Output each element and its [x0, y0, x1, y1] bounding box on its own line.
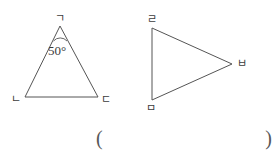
answer-blank[interactable]: ( )	[96, 126, 272, 150]
close-paren: )	[265, 128, 272, 148]
vertex-label-nieun: ㄴ	[11, 94, 21, 105]
left-triangle-shape	[25, 26, 98, 97]
angle-arc-50	[54, 38, 68, 41]
vertex-label-digeut: ㄷ	[101, 94, 111, 105]
vertex-label-bieup: ㅂ	[237, 58, 247, 69]
right-triangle-shape	[152, 28, 232, 100]
vertex-label-mieum: ㅁ	[146, 103, 156, 114]
vertex-label-giyeok: ㄱ	[55, 13, 65, 24]
open-paren: (	[96, 128, 103, 148]
vertex-label-rieul: ㄹ	[147, 14, 157, 25]
angle-measure-50: 50°	[48, 44, 66, 57]
answer-input-area[interactable]	[103, 138, 266, 139]
